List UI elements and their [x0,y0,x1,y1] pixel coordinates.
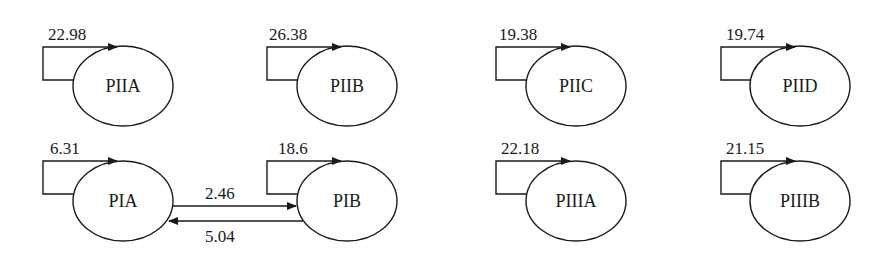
self-loop-arrow [267,161,341,194]
node-pib: PIB 18.6 [267,139,397,241]
node-label: PIID [783,76,818,96]
self-loop-arrow [496,161,570,194]
edge-pia-to-pib: 2.46 [173,184,296,206]
self-loop-label: 19.74 [726,25,765,44]
node-label: PIIC [559,76,593,96]
self-loop-label: 22.98 [48,25,86,44]
node-label: PIA [108,191,137,211]
node-piid: PIID 19.74 [721,25,850,126]
state-diagram: PIIA 22.98 PIIB 26.38 PIIC 19.38 PIID 19… [0,0,887,264]
self-loop-label: 18.6 [278,139,308,158]
self-loop-arrow [43,161,117,194]
node-label: PIIIB [780,191,820,211]
self-loop-label: 26.38 [269,25,307,44]
node-pia: PIA 6.31 [43,139,173,241]
node-label: PIIA [106,76,141,96]
node-label: PIIIA [556,191,597,211]
node-label: PIB [333,191,361,211]
node-piic: PIIC 19.38 [496,25,626,126]
node-piiib: PIIIB 21.15 [721,139,850,241]
node-piia: PIIA 22.98 [43,25,173,126]
edge-pib-to-pia: 5.04 [169,221,303,246]
node-piib: PIIB 26.38 [267,25,397,126]
edge-label: 2.46 [205,184,235,203]
self-loop-label: 21.15 [726,139,764,158]
self-loop-label: 6.31 [50,139,80,158]
node-piiia: PIIIA 22.18 [496,139,626,241]
self-loop-arrow [721,161,795,194]
self-loop-label: 22.18 [501,139,539,158]
edge-label: 5.04 [205,227,235,246]
self-loop-label: 19.38 [499,25,537,44]
node-label: PIIB [330,76,364,96]
